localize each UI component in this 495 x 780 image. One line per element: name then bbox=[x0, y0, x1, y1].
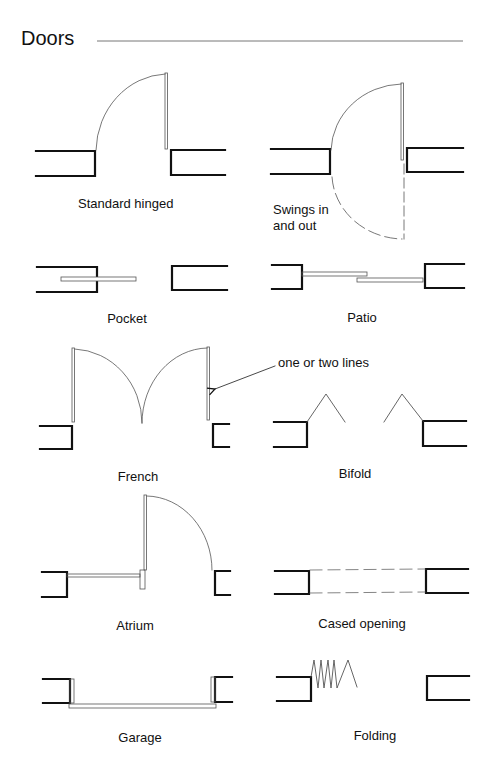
right-wall bbox=[215, 571, 230, 595]
right-wall bbox=[425, 264, 464, 288]
left-fold bbox=[307, 394, 345, 422]
atrium-symbol bbox=[42, 495, 230, 597]
door-leaf bbox=[401, 83, 404, 160]
left-swing-arc bbox=[75, 349, 142, 423]
pocket-symbol bbox=[37, 266, 227, 292]
left-leaf bbox=[72, 348, 75, 422]
label-pocket: Pocket bbox=[107, 311, 147, 326]
folding-symbol bbox=[277, 660, 469, 701]
pocket-door bbox=[61, 277, 136, 281]
label-line-2: and out bbox=[273, 218, 329, 234]
label-garage: Garage bbox=[118, 730, 161, 745]
right-wall bbox=[427, 676, 469, 700]
label-bifold: Bifold bbox=[339, 466, 372, 481]
right-wall bbox=[172, 266, 227, 290]
swing-arc bbox=[147, 496, 212, 570]
dashed-top bbox=[310, 569, 425, 570]
annotation-arrow bbox=[215, 366, 275, 389]
label-patio: Patio bbox=[347, 310, 377, 325]
label-atrium: Atrium bbox=[116, 618, 154, 633]
left-wall bbox=[43, 679, 70, 703]
hinge-post bbox=[140, 570, 145, 589]
door-leaf bbox=[165, 73, 168, 149]
label-folding: Folding bbox=[354, 728, 397, 743]
right-wall bbox=[426, 569, 468, 593]
standard-hinged-symbol bbox=[36, 73, 225, 176]
swing-arc bbox=[96, 74, 165, 150]
patio-symbol bbox=[272, 264, 464, 289]
label-swings-in-and-out: Swings in and out bbox=[273, 202, 329, 234]
label-french: French bbox=[118, 469, 158, 484]
left-wall bbox=[36, 151, 95, 176]
door-leaf bbox=[144, 495, 147, 570]
left-wall bbox=[271, 149, 330, 174]
right-fold bbox=[384, 394, 423, 422]
sliding-panel-2 bbox=[357, 278, 423, 282]
fixed-panel bbox=[67, 574, 140, 577]
overhead-door bbox=[69, 704, 216, 708]
garage-symbol bbox=[43, 677, 232, 708]
left-wall bbox=[42, 572, 67, 597]
label-standard-hinged: Standard hinged bbox=[78, 196, 173, 211]
left-wall bbox=[275, 571, 309, 594]
left-wall bbox=[40, 426, 72, 449]
annotation-text: one or two lines bbox=[278, 355, 369, 370]
page-title: Doors bbox=[21, 27, 74, 50]
french-symbol bbox=[40, 347, 229, 449]
right-wall bbox=[407, 148, 463, 172]
label-cased-opening: Cased opening bbox=[318, 616, 405, 631]
cased-opening-symbol bbox=[275, 569, 468, 594]
right-wall bbox=[213, 424, 229, 447]
sliding-panel-1 bbox=[302, 272, 367, 276]
label-line-1: Swings in bbox=[273, 202, 329, 218]
right-swing-arc bbox=[142, 348, 207, 423]
door-symbols-diagram bbox=[0, 0, 495, 780]
left-wall bbox=[277, 677, 311, 701]
dashed-bottom bbox=[310, 592, 425, 593]
swing-arc-in bbox=[331, 84, 401, 150]
bifold-symbol bbox=[274, 394, 466, 447]
right-wall bbox=[423, 421, 466, 446]
right-wall bbox=[215, 677, 232, 702]
right-wall bbox=[171, 150, 225, 175]
right-leaf bbox=[207, 347, 210, 420]
swing-arc-out bbox=[332, 177, 402, 239]
accordion-folds bbox=[311, 660, 357, 688]
left-wall bbox=[274, 422, 307, 447]
left-wall bbox=[272, 265, 302, 289]
